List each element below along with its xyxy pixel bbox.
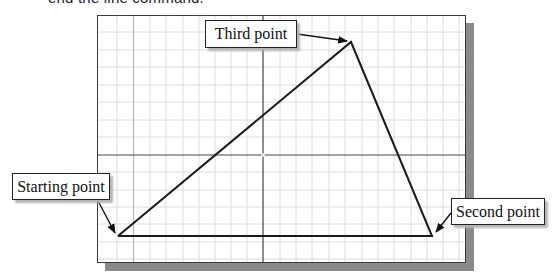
grid	[98, 16, 465, 262]
starting-point-leader	[97, 199, 115, 233]
second-point-label-text: Second point	[456, 203, 540, 221]
second-point-label: Second point	[451, 198, 545, 225]
starting-point-label: Starting point	[12, 173, 110, 200]
starting-point-label-text: Starting point	[17, 178, 105, 196]
third-point-label-text: Third point	[215, 25, 287, 43]
third-point-leader	[297, 34, 347, 41]
origin-marker	[261, 153, 265, 157]
third-point-label: Third point	[205, 20, 297, 48]
